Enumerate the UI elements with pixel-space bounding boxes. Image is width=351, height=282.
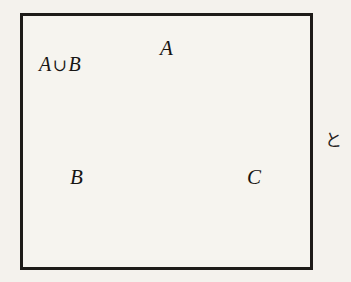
union-operator-icon: ∪ bbox=[52, 56, 69, 75]
figure-page: A B C A∪B と bbox=[0, 0, 351, 282]
set-label-a: A bbox=[160, 38, 173, 59]
callout-operand-a: A bbox=[39, 53, 52, 75]
callout-operand-b: B bbox=[68, 53, 81, 75]
set-label-c: C bbox=[247, 167, 261, 188]
side-annotation-character: と bbox=[325, 132, 342, 149]
set-label-b: B bbox=[70, 167, 83, 188]
callout-label-a-union-b: A∪B bbox=[39, 54, 81, 74]
